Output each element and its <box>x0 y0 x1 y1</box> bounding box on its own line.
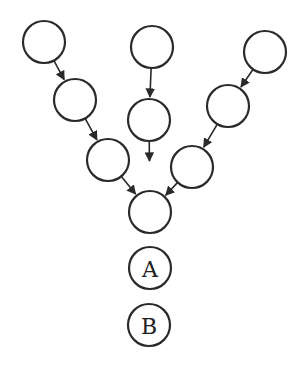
node-circle <box>244 31 286 73</box>
node-circle <box>129 191 171 233</box>
node-circle <box>128 99 170 141</box>
node-l3 <box>87 139 129 181</box>
node-b: B <box>128 304 170 346</box>
node-circle <box>207 85 249 127</box>
arrow-edge-r2-r3 <box>204 124 218 147</box>
node-r3 <box>171 146 213 188</box>
node-l2 <box>54 79 96 121</box>
node-label-a: A <box>141 257 159 282</box>
nodes: AB <box>23 21 286 346</box>
arrow-edge-m1-m2 <box>150 68 151 97</box>
node-l1 <box>23 21 65 63</box>
arrow-edge-l1-l2 <box>54 61 64 80</box>
node-c <box>129 191 171 233</box>
arrow-edge-r1-r2 <box>241 69 253 87</box>
node-circle <box>23 21 65 63</box>
node-circle <box>87 139 129 181</box>
node-m1 <box>131 26 173 68</box>
node-label-b: B <box>141 314 157 339</box>
node-a: A <box>129 247 171 289</box>
node-r2 <box>207 85 249 127</box>
diagram-canvas: AB <box>0 0 302 370</box>
arrow-edge-l3-c <box>121 176 135 194</box>
node-circle <box>131 26 173 68</box>
node-r1 <box>244 31 286 73</box>
arrow-edge-r3-c <box>166 182 178 195</box>
node-m2 <box>128 99 170 141</box>
node-circle <box>54 79 96 121</box>
node-circle <box>171 146 213 188</box>
arrow-edge-l2-l3 <box>85 118 97 139</box>
